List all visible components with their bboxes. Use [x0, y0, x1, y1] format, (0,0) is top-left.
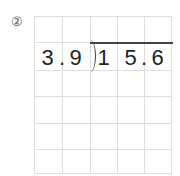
grid-line [34, 96, 172, 97]
grid-line [144, 16, 145, 174]
divisor-digit: 3 [34, 46, 61, 70]
grid-line [62, 16, 63, 174]
grid-line [34, 16, 35, 174]
division-bar [90, 42, 173, 44]
grid-line [34, 70, 172, 71]
problem-number: ② [11, 14, 23, 29]
grid-line [34, 149, 172, 150]
grid-line [34, 173, 172, 174]
divisor-digit: 9 [62, 46, 89, 70]
grid-line [34, 16, 172, 17]
dividend-digit: 6 [144, 46, 171, 70]
division-grid: 3 . 9 1 5 . 6 [34, 16, 172, 174]
dividend-digit: 1 [90, 46, 117, 70]
grid-line [117, 16, 118, 174]
dividend-digit: 5 [117, 46, 144, 70]
grid-line [171, 16, 172, 174]
grid-line [34, 123, 172, 124]
